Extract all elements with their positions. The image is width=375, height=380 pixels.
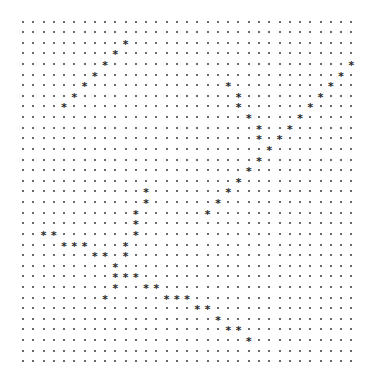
dot-icon: [285, 356, 295, 366]
dot-icon: [336, 17, 346, 27]
dot-icon: [59, 303, 69, 313]
dot-icon: [28, 186, 38, 196]
dot-icon: [244, 27, 254, 37]
dot-icon: [162, 17, 172, 27]
dot-icon: [233, 335, 243, 345]
dot-icon: [336, 59, 346, 69]
dot-icon: [18, 38, 28, 48]
dot-icon: [131, 144, 141, 154]
dot-icon: [316, 123, 326, 133]
asterisk-icon: *: [233, 101, 243, 111]
dot-icon: [49, 91, 59, 101]
dot-icon: [203, 91, 213, 101]
dot-icon: [28, 282, 38, 292]
dot-icon: [100, 176, 110, 186]
asterisk-icon: *: [80, 80, 90, 90]
dot-icon: [285, 303, 295, 313]
dot-icon: [254, 303, 264, 313]
dot-icon: [39, 314, 49, 324]
asterisk-icon: *: [285, 123, 295, 133]
asterisk-icon: *: [326, 80, 336, 90]
dot-icon: [244, 101, 254, 111]
dot-icon: [18, 303, 28, 313]
dot-icon: [275, 197, 285, 207]
dot-icon: [305, 250, 315, 260]
dot-icon: [213, 38, 223, 48]
dot-icon: [192, 324, 202, 334]
dot-icon: [316, 271, 326, 281]
dot-icon: [254, 165, 264, 175]
dot-icon: [18, 123, 28, 133]
dot-icon: [203, 165, 213, 175]
dot-icon: [326, 17, 336, 27]
dot-icon: [223, 133, 233, 143]
dot-icon: [275, 261, 285, 271]
dot-icon: [233, 38, 243, 48]
dot-icon: [121, 324, 131, 334]
dot-icon: [121, 261, 131, 271]
dot-icon: [223, 271, 233, 281]
dot-icon: [192, 144, 202, 154]
dot-icon: [141, 229, 151, 239]
dot-icon: [295, 48, 305, 58]
dot-icon: [254, 293, 264, 303]
dot-icon: [49, 27, 59, 37]
dot-icon: [39, 48, 49, 58]
dot-icon: [39, 261, 49, 271]
dot-icon: [233, 240, 243, 250]
dot-icon: [346, 80, 356, 90]
dot-icon: [151, 155, 161, 165]
dot-icon: [233, 218, 243, 228]
dot-icon: [39, 123, 49, 133]
dot-icon: [275, 80, 285, 90]
dot-icon: [110, 346, 120, 356]
dot-icon: [316, 293, 326, 303]
dot-icon: [39, 101, 49, 111]
dot-icon: [80, 197, 90, 207]
dot-icon: [131, 282, 141, 292]
dot-icon: [192, 218, 202, 228]
dot-icon: [316, 176, 326, 186]
dot-icon: [151, 59, 161, 69]
dot-icon: [203, 282, 213, 292]
dot-icon: [69, 80, 79, 90]
dot-icon: [162, 271, 172, 281]
dot-icon: [203, 155, 213, 165]
dot-icon: [182, 80, 192, 90]
dot-icon: [80, 17, 90, 27]
dot-icon: [90, 197, 100, 207]
dot-icon: [254, 186, 264, 196]
dot-icon: [141, 250, 151, 260]
asterisk-icon: *: [295, 112, 305, 122]
dot-icon: [305, 144, 315, 154]
dot-icon: [316, 197, 326, 207]
dot-icon: [182, 17, 192, 27]
dot-icon: [90, 112, 100, 122]
dot-icon: [326, 218, 336, 228]
dot-icon: [39, 176, 49, 186]
dot-icon: [203, 133, 213, 143]
dot-icon: [244, 123, 254, 133]
dot-icon: [69, 144, 79, 154]
dot-icon: [39, 70, 49, 80]
dot-icon: [121, 218, 131, 228]
dot-icon: [285, 91, 295, 101]
dot-icon: [182, 282, 192, 292]
dot-icon: [244, 303, 254, 313]
dot-icon: [264, 123, 274, 133]
asterisk-icon: *: [100, 293, 110, 303]
dot-icon: [326, 197, 336, 207]
asterisk-icon: *: [100, 59, 110, 69]
dot-icon: [264, 197, 274, 207]
dot-icon: [80, 282, 90, 292]
dot-icon: [233, 197, 243, 207]
asterisk-icon: *: [223, 324, 233, 334]
dot-icon: [69, 165, 79, 175]
dot-icon: [172, 17, 182, 27]
dot-icon: [182, 314, 192, 324]
dot-icon: [295, 186, 305, 196]
dot-icon: [69, 282, 79, 292]
dot-icon: [213, 123, 223, 133]
dot-icon: [69, 261, 79, 271]
dot-icon: [182, 59, 192, 69]
